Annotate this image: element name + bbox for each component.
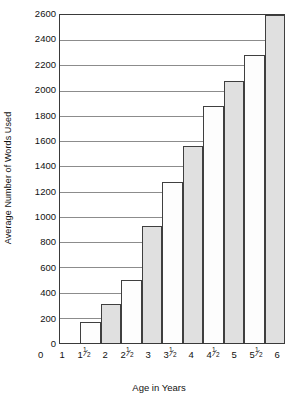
y-axis-tick-label: 1600 (35, 136, 56, 146)
bars-layer (60, 15, 285, 343)
bar[interactable] (183, 146, 203, 343)
bar-slot (183, 15, 203, 343)
y-axis-tick-label: 2400 (35, 35, 56, 45)
x-axis-tick-label: 6 (267, 347, 289, 367)
y-axis-tick-label: 1800 (35, 111, 56, 121)
bar-slot (244, 15, 264, 343)
y-axis-tick-label: 1400 (35, 162, 56, 172)
y-axis-tick-label: 200 (40, 314, 56, 324)
x-axis-tick-label: 1 (52, 347, 74, 367)
bar[interactable] (80, 322, 100, 343)
x-axis-tick-labels: 0111⁄2221⁄2331⁄2441⁄2551⁄26 (30, 347, 288, 367)
x-axis-title: Age in Years (30, 382, 288, 393)
y-axis-tick-label: 1000 (35, 212, 56, 222)
x-axis-tick-label: 11⁄2 (73, 347, 95, 367)
bar[interactable] (121, 280, 141, 343)
y-axis-tick-label: 2600 (35, 9, 56, 19)
bar[interactable] (142, 226, 162, 343)
bar-slot (142, 15, 162, 343)
bar[interactable] (244, 55, 264, 343)
x-axis-tick-label: 2 (95, 347, 117, 367)
bar[interactable] (101, 304, 121, 343)
y-axis-tick-label: 800 (40, 238, 56, 248)
y-axis-tick-label: 400 (40, 288, 56, 298)
x-axis-tick-label: 21⁄2 (116, 347, 138, 367)
x-axis-tick-label: 5 (224, 347, 246, 367)
bar-slot (224, 15, 244, 343)
x-axis-tick-label: 3 (138, 347, 160, 367)
bar-chart: Average Number of Words Used 02004006008… (0, 0, 298, 407)
bar-slot (60, 15, 80, 343)
bar-slot (265, 15, 285, 343)
bar[interactable] (265, 15, 285, 343)
y-axis-tick-label: 2200 (35, 60, 56, 70)
x-axis-tick-label: 41⁄2 (202, 347, 224, 367)
x-axis-origin-label: 0 (30, 347, 52, 367)
plot-area (59, 14, 285, 344)
y-axis-title: Average Number of Words Used (0, 0, 16, 355)
y-axis-tick-label: 600 (40, 263, 56, 273)
y-axis-tick-label: 2000 (35, 85, 56, 95)
bar-slot (162, 15, 182, 343)
x-axis-tick-label: 4 (181, 347, 203, 367)
bar-slot (101, 15, 121, 343)
y-axis-tick-label: 1200 (35, 187, 56, 197)
y-axis-tick-labels: 0200400600800100012001400160018002000220… (17, 14, 59, 344)
bar[interactable] (224, 81, 244, 343)
bar[interactable] (162, 182, 182, 343)
y-axis-title-text: Average Number of Words Used (3, 111, 13, 244)
bar-slot (80, 15, 100, 343)
x-axis-tick-label: 31⁄2 (159, 347, 181, 367)
bar[interactable] (203, 106, 223, 343)
bar-slot (121, 15, 141, 343)
bar-slot (203, 15, 223, 343)
x-axis-tick-label: 51⁄2 (245, 347, 267, 367)
